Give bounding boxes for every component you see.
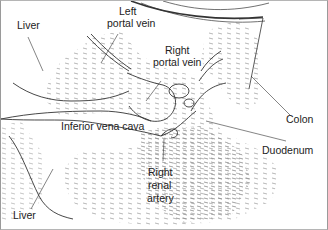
label-right-portal-vein-2: portal vein (153, 56, 201, 68)
diagram-frame: Liver Left portal vein Right portal vein… (0, 0, 328, 230)
label-duodenum: Duodenum (262, 144, 313, 156)
label-right-renal-artery-1: Right (148, 166, 173, 178)
label-left-portal-vein-1: Left (119, 5, 137, 17)
label-inferior-vena-cava: Inferior vena cava (61, 120, 144, 132)
label-colon: Colon (286, 113, 313, 125)
label-right-portal-vein-1: Right (165, 44, 190, 56)
label-liver-bottom: Liver (13, 209, 36, 221)
label-left-portal-vein-2: portal vein (107, 17, 155, 29)
label-right-renal-artery-3: artery (147, 192, 174, 204)
label-right-renal-artery-2: renal (148, 179, 171, 191)
label-liver-top: Liver (17, 19, 40, 31)
